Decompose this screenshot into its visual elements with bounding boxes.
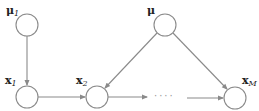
label-mu: μ bbox=[147, 4, 155, 17]
label-x1: x1 bbox=[5, 74, 17, 88]
graphical-model-diagram: μ1 x1 x2 μ xM ···· bbox=[0, 0, 259, 111]
node-mu1 bbox=[16, 14, 38, 36]
label-xM: xM bbox=[242, 74, 258, 88]
node-xM bbox=[224, 87, 246, 109]
node-x1 bbox=[16, 86, 38, 108]
edge-mu-xM bbox=[173, 33, 227, 89]
node-mu bbox=[154, 14, 176, 36]
ellipsis: ···· bbox=[154, 90, 175, 101]
edge-mu-x2 bbox=[105, 33, 157, 88]
node-x2 bbox=[86, 86, 108, 108]
label-x2: x2 bbox=[76, 74, 88, 88]
label-mu1: μ1 bbox=[6, 4, 19, 18]
